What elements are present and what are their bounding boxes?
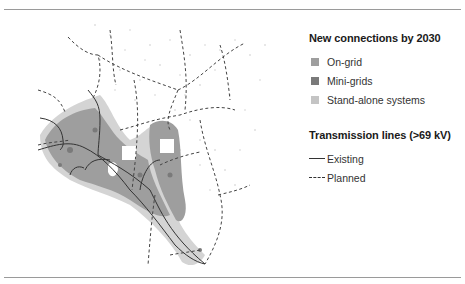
legend-label: Planned	[327, 172, 366, 184]
legend-item-planned: Planned	[309, 168, 465, 187]
legend-item-existing: Existing	[309, 149, 465, 168]
legend: New connections by 2030 On-grid Mini-gri…	[309, 32, 465, 187]
legend-label: On-grid	[327, 56, 362, 68]
stand-alone-swatch-icon	[311, 96, 319, 104]
legend-item-on-grid: On-grid	[309, 52, 465, 71]
legend-label: Mini-grids	[327, 75, 373, 87]
bottom-rule	[4, 277, 461, 278]
legend-item-stand-alone: Stand-alone systems	[309, 90, 465, 109]
legend-label: Existing	[327, 153, 364, 165]
solid-line-icon	[309, 158, 325, 159]
on-grid-swatch-icon	[311, 58, 319, 66]
transmission-legend-title: Transmission lines (>69 kV)	[309, 129, 465, 141]
dashed-line-icon	[309, 177, 325, 178]
mini-grids-swatch-icon	[311, 77, 319, 85]
legend-item-mini-grids: Mini-grids	[309, 71, 465, 90]
kenya-map	[0, 10, 300, 276]
connections-legend-title: New connections by 2030	[309, 32, 465, 44]
legend-label: Stand-alone systems	[327, 94, 425, 106]
